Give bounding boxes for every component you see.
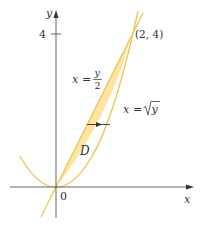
line-equation-label: x = y 2 <box>72 67 102 91</box>
svg-text:y: y <box>151 103 159 116</box>
svg-text:2: 2 <box>95 80 101 91</box>
region-label: D <box>79 144 90 158</box>
diagram-canvas: y 4 x 0 (2, 4) x = y 2 x = y D <box>0 0 201 227</box>
svg-text:x: x <box>123 103 130 116</box>
x-axis-label: x <box>184 193 191 206</box>
svg-text:=: = <box>133 103 142 116</box>
svg-text:=: = <box>82 73 91 86</box>
intersection-label: (2, 4) <box>135 28 163 40</box>
y-tick-label: 4 <box>39 28 46 41</box>
y-axis-label: y <box>45 7 53 20</box>
region-diagram: y 4 x 0 (2, 4) x = y 2 x = y D <box>0 0 201 227</box>
arrow-right-icon <box>96 122 102 127</box>
svg-text:x: x <box>72 73 79 86</box>
parabola-curve <box>20 11 138 187</box>
parabola-equation-label: x = y <box>123 102 160 117</box>
origin-label: 0 <box>60 190 67 203</box>
y-axis-arrowhead-icon <box>54 10 59 18</box>
x-axis-arrowhead-icon <box>186 185 194 190</box>
svg-text:y: y <box>94 67 101 78</box>
